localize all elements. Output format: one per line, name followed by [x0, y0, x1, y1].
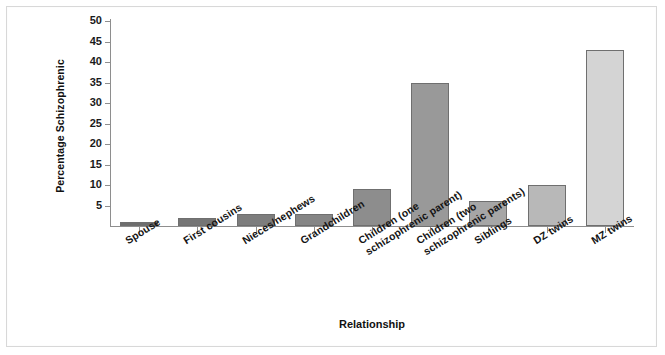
- y-tick-mark: [105, 124, 110, 125]
- y-tick-mark: [105, 62, 110, 63]
- y-tick-label: 5: [76, 200, 102, 211]
- y-tick-label: 10: [76, 179, 102, 190]
- y-tick-mark: [105, 83, 110, 84]
- y-tick-label: 20: [76, 138, 102, 149]
- y-tick-label: 30: [76, 97, 102, 108]
- bar: [586, 50, 624, 226]
- x-axis-title: Relationship: [110, 318, 634, 330]
- y-tick-label: 50: [76, 15, 102, 26]
- chart-figure: Percentage Schizophrenic 504540353025201…: [0, 0, 665, 355]
- y-tick-mark: [105, 42, 110, 43]
- y-tick-label: 45: [76, 36, 102, 47]
- y-tick-mark: [105, 165, 110, 166]
- y-tick-mark: [105, 21, 110, 22]
- y-tick-mark: [105, 185, 110, 186]
- y-axis-line: [110, 19, 111, 227]
- y-tick-label: 25: [76, 118, 102, 129]
- plot-area: Percentage Schizophrenic 504540353025201…: [0, 0, 665, 355]
- y-tick-label: 40: [76, 56, 102, 67]
- y-tick-mark: [105, 206, 110, 207]
- y-tick-mark: [105, 103, 110, 104]
- y-axis-title: Percentage Schizophrenic: [54, 36, 66, 216]
- y-tick-label: 35: [76, 77, 102, 88]
- x-tick-label: Spouse: [123, 216, 163, 247]
- y-tick-label: 15: [76, 159, 102, 170]
- y-tick-mark: [105, 144, 110, 145]
